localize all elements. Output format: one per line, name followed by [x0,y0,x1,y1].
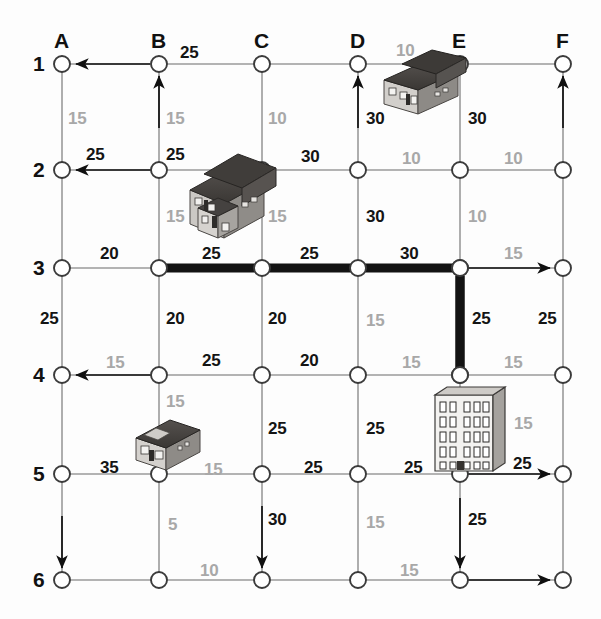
grid-nodes[interactable] [54,56,571,588]
cost-v-D1-D2: 30 [366,110,384,127]
row-header-5: 5 [33,463,44,484]
cost-v-A3-A4: 25 [40,310,58,327]
node-C1 [254,56,270,72]
cost-v-C1-C2: 10 [268,110,286,127]
node-F2 [555,162,571,178]
row-header-3: 3 [33,257,44,278]
node-F1 [555,56,571,72]
cost-h-E2-F2: 10 [504,150,522,167]
node-C6 [254,572,270,588]
cost-v-B2-B3: 15 [166,208,184,225]
cost-h-E5-F5: 25 [513,455,531,472]
cost-v-C2-C3: 15 [268,208,286,225]
cost-h-A2-B2: 25 [86,146,104,163]
node-A4 [54,367,70,383]
node-D2 [350,162,366,178]
network-grid-diagram: A B C D E F 1 2 3 4 5 6 25 25 25 30 10 1… [0,0,601,619]
office-tower-E4 [435,387,505,471]
node-A1 [54,56,70,72]
cost-v-E3-E4: 25 [472,310,490,327]
cost-v-C3-C4: 20 [268,310,286,327]
row-header-1: 1 [33,53,44,74]
node-D3 [350,260,366,276]
cost-v-C5-C6: 30 [268,511,286,528]
cost-v-B5-B6: 5 [168,516,177,533]
node-C5 [254,466,270,482]
cost-v-B3-B4: 20 [166,310,184,327]
cost-h-B2-C2: 25 [166,146,184,163]
node-C4 [254,367,270,383]
column-header-A: A [54,30,69,51]
node-B6 [151,572,167,588]
column-header-F: F [556,30,569,51]
cost-h-D1-E1: 10 [396,42,414,59]
cost-v-D2-D3: 30 [366,208,384,225]
node-F6 [555,572,571,588]
cost-v-E4-E5: 15 [514,415,532,432]
cost-h-B4-C4: 25 [202,352,220,369]
cost-v-D5-D6: 15 [366,514,384,531]
node-B2 [151,162,167,178]
grid-canvas [0,0,601,619]
node-B4 [151,367,167,383]
node-E2 [452,162,468,178]
cost-v-E1-E2: 30 [468,110,486,127]
cost-v-E2-E3: 10 [468,208,486,225]
cost-h-E4-F4: 15 [504,354,522,371]
cost-h-D2-E2: 10 [402,150,420,167]
node-F5 [555,466,571,482]
row-header-2: 2 [33,159,44,180]
node-D5 [350,466,366,482]
cost-h-B3-C3: 25 [202,245,220,262]
column-header-C: C [254,30,269,51]
cost-h-A5-B5: 35 [100,459,118,476]
house-small-B5 [136,420,200,470]
cost-h-E3-F3: 15 [504,245,522,262]
cost-v-B1-B2: 15 [166,110,184,127]
node-F3 [555,260,571,276]
node-E6 [452,572,468,588]
row-header-4: 4 [33,364,44,385]
node-C3 [254,260,270,276]
cost-h-B6-C6: 10 [200,562,218,579]
node-A6 [54,572,70,588]
cost-v-C4-C5: 25 [268,420,286,437]
cost-h-C5-D5: 25 [304,459,322,476]
node-A3 [54,260,70,276]
column-header-D: D [350,30,365,51]
node-D1 [350,56,366,72]
node-B3 [151,260,167,276]
column-header-E: E [452,30,466,51]
node-A2 [54,162,70,178]
house-large-B2 [190,154,276,238]
cost-h-D4-E4: 15 [402,354,420,371]
cost-v-D3-D4: 15 [366,312,384,329]
row-header-6: 6 [33,569,44,590]
cost-h-D6-E6: 15 [400,562,418,579]
cost-v-D4-D5: 25 [366,420,384,437]
cost-v-F3-F4: 25 [538,310,556,327]
node-A5 [54,466,70,482]
node-D6 [350,572,366,588]
cost-v-A1-A2: 15 [68,110,86,127]
cost-h-C3-D3: 25 [300,245,318,262]
node-B1 [151,56,167,72]
cost-h-A4-B4: 15 [106,354,124,371]
cost-h-A1-B1: 25 [180,44,198,61]
cost-h-D3-E3: 30 [400,245,418,262]
node-F4 [555,367,571,383]
node-D4 [350,367,366,383]
cost-h-B5-C5: 15 [204,461,222,478]
column-header-B: B [151,30,166,51]
cost-h-C2-D2: 30 [301,148,319,165]
cost-v-B4-B5: 15 [166,393,184,410]
cost-h-D5-E5: 25 [404,459,422,476]
cost-h-A3-B3: 20 [100,245,118,262]
cost-v-E5-E6: 25 [468,511,486,528]
cost-h-C4-D4: 20 [300,352,318,369]
